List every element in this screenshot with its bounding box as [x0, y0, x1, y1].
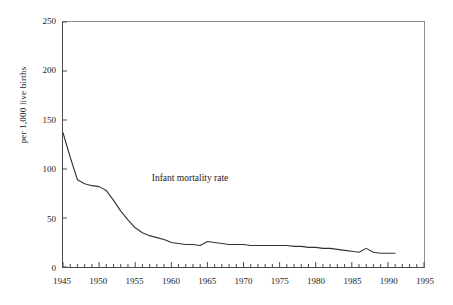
plot-canvas	[63, 22, 424, 267]
annotation-infant-mortality-rate: Infant mortality rate	[152, 173, 229, 183]
x-tick-label: 1975	[260, 276, 300, 286]
x-tick-label: 1985	[332, 276, 372, 286]
y-tick-label: 150	[16, 115, 56, 125]
x-tick-label: 1995	[405, 276, 445, 286]
y-tick-label: 250	[16, 16, 56, 26]
x-tick-label: 1945	[42, 276, 82, 286]
series-line-infant-mortality-rate	[63, 133, 395, 254]
y-tick-label: 0	[16, 263, 56, 273]
y-tick-label: 200	[16, 65, 56, 75]
chart-figure: per 1,000 live births 050100150200250 In…	[0, 0, 453, 305]
x-tick-label: 1955	[115, 276, 155, 286]
x-axis-tick-labels: 1945195019551960196519701975198019851990…	[62, 276, 425, 292]
y-axis-tick-labels: 050100150200250	[12, 21, 56, 268]
y-tick-label: 50	[16, 214, 56, 224]
x-tick-label: 1960	[151, 276, 191, 286]
x-tick-label: 1970	[224, 276, 264, 286]
x-tick-label: 1990	[369, 276, 409, 286]
x-tick-label: 1965	[187, 276, 227, 286]
x-tick-label: 1980	[296, 276, 336, 286]
y-tick-label: 100	[16, 164, 56, 174]
plot-area: Infant mortality rate	[62, 21, 425, 268]
x-tick-label: 1950	[78, 276, 118, 286]
